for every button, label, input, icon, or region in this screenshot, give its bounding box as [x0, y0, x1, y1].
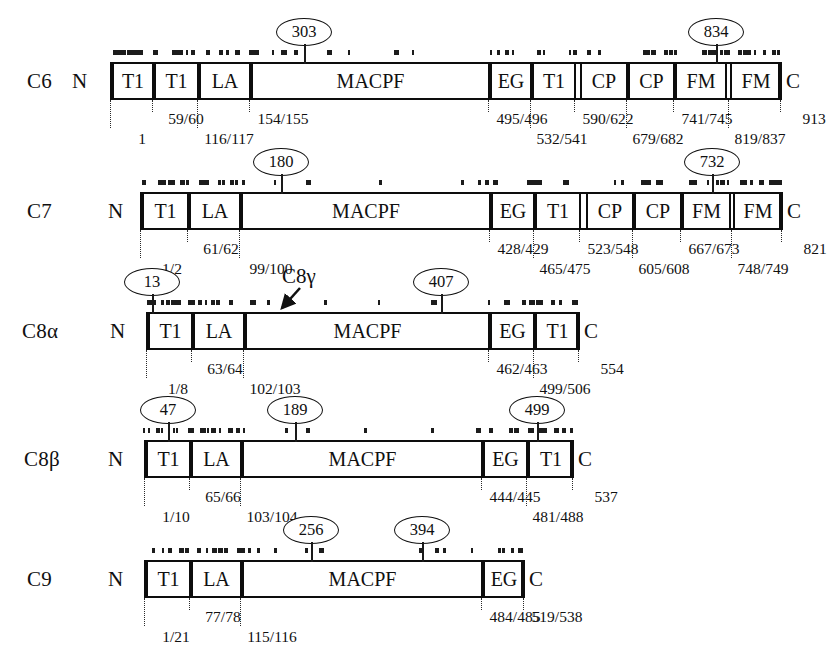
callout-stem: [152, 294, 154, 314]
sequence-mark: [185, 548, 189, 553]
sequence-mark: [162, 548, 165, 553]
boundary-tick: [481, 478, 482, 490]
sequence-mark: [488, 300, 491, 305]
domain-label: EG: [500, 201, 527, 221]
protein-name-label: C7: [27, 199, 52, 224]
domain-bar: T1LAMACPFEGT1CPCPFMFM: [140, 192, 781, 230]
domain-bar: T1LAMACPFEG: [144, 560, 523, 598]
sequence-mark: [200, 428, 203, 433]
glycosylation-callout: 180: [254, 148, 308, 194]
callout-bubble: 180: [253, 148, 309, 176]
sequence-mark: [168, 548, 171, 553]
domain-box-t1: T1: [146, 560, 191, 598]
sequence-mark: [598, 50, 601, 55]
sequence-mark-strip: [0, 428, 816, 435]
sequence-mark: [207, 180, 210, 185]
boundary-tick: [530, 100, 531, 128]
sequence-mark: [777, 50, 780, 55]
sequence-mark: [476, 428, 480, 433]
boundary-tick: [488, 350, 489, 362]
sequence-mark: [754, 50, 757, 55]
boundary-label-upper: 495/496: [497, 110, 548, 128]
domain-box-macpf: MACPF: [251, 62, 490, 100]
domain-label: T1: [154, 201, 176, 221]
sequence-mark: [120, 50, 124, 55]
sequence-mark: [224, 548, 228, 553]
sequence-mark: [219, 50, 223, 55]
domain-label: EG: [491, 569, 518, 589]
sequence-mark: [249, 50, 253, 55]
domain-label: MACPF: [337, 71, 405, 91]
sequence-mark: [230, 180, 234, 185]
sequence-mark: [242, 180, 245, 185]
boundary-label-lower: 748/749: [738, 260, 789, 278]
sequence-mark: [750, 180, 753, 185]
callout-stem: [537, 422, 539, 442]
sequence-mark: [235, 180, 238, 185]
glycosylation-callout: 732: [685, 148, 739, 194]
sequence-mark: [192, 50, 195, 55]
boundary-tick: [523, 598, 524, 610]
sequence-mark: [569, 50, 572, 55]
boundary-tick: [781, 230, 782, 242]
domain-box-eg: EG: [483, 560, 525, 598]
domain-box-t1: T1: [142, 192, 189, 230]
domain-label: LA: [203, 449, 230, 469]
sequence-mark: [272, 50, 275, 55]
sequence-mark: [133, 50, 137, 55]
boundary-tick: [152, 100, 153, 112]
boundary-tick: [240, 598, 241, 626]
domain-box-fm: FM: [682, 192, 731, 230]
sequence-mark: [249, 548, 252, 553]
sequence-mark: [198, 300, 202, 305]
sequence-mark: [229, 300, 232, 305]
sequence-mark: [207, 50, 210, 55]
c-terminus-label: C: [787, 199, 801, 224]
boundary-label-upper: 59/60: [168, 110, 203, 128]
domain-label: FM: [687, 71, 716, 91]
sequence-mark: [142, 180, 146, 185]
sequence-mark: [394, 50, 398, 55]
sequence-mark: [536, 300, 540, 305]
boundary-tick: [731, 230, 732, 258]
sequence-mark: [498, 548, 501, 553]
c8-gamma-arrow-icon: [274, 286, 310, 318]
domain-box-t1: T1: [532, 62, 576, 100]
sequence-mark: [771, 180, 775, 185]
sequence-mark: [431, 428, 434, 433]
domain-box-la: LA: [199, 62, 251, 100]
boundary-tick: [632, 230, 633, 258]
n-terminus-label: N: [110, 319, 125, 344]
sequence-mark: [267, 300, 270, 305]
domain-box-fm: FM: [675, 62, 727, 100]
boundary-label-upper: 523/548: [588, 240, 639, 258]
domain-box-t1: T1: [535, 312, 580, 350]
domain-box-cp: CP: [580, 62, 628, 100]
boundary-tick: [680, 230, 681, 242]
callout-stem: [716, 44, 718, 64]
boundary-label-upper: 65/66: [205, 488, 240, 506]
sequence-mark: [177, 50, 181, 55]
callout-bubble: 834: [688, 18, 744, 46]
domain-label: CP: [598, 201, 622, 221]
domain-label: T1: [159, 321, 181, 341]
callout-bubble: 47: [140, 396, 196, 424]
sequence-mark: [378, 300, 381, 305]
sequence-mark: [203, 428, 206, 433]
sequence-mark: [172, 50, 175, 55]
sequence-mark: [647, 50, 650, 55]
boundary-tick: [533, 230, 534, 258]
sequence-mark: [235, 50, 239, 55]
sequence-mark: [218, 548, 222, 553]
boundary-tick: [578, 350, 579, 362]
sequence-mark: [512, 50, 515, 55]
sequence-mark: [117, 50, 120, 55]
callout-stem: [168, 422, 170, 442]
domain-bar: T1LAMACPFEGT1: [146, 312, 578, 350]
domain-label: LA: [212, 71, 239, 91]
domain-label: T1: [543, 71, 565, 91]
glycosylation-callout: 499: [510, 396, 564, 442]
boundary-tick: [249, 100, 250, 112]
domain-box-la: LA: [189, 192, 241, 230]
